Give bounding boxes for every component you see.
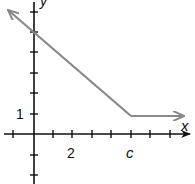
x-tick-label-2: 2 [67,145,75,161]
piecewise-graph: y x 2 c 1 [0,0,195,184]
y-tick-label-1: 1 [16,106,24,122]
x-tick-label-c: c [126,144,134,161]
x-axis-label: x [180,117,189,134]
y-axis-label: y [39,0,48,9]
x-axis [4,130,190,138]
